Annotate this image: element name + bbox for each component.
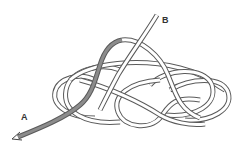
label-b: B: [162, 15, 169, 25]
label-a: A: [21, 112, 28, 122]
knot-diagram: .o { fill: none; stroke: #5a5a5a; stroke…: [0, 0, 241, 151]
knot-drawing: .o { fill: none; stroke: #5a5a5a; stroke…: [0, 0, 241, 151]
